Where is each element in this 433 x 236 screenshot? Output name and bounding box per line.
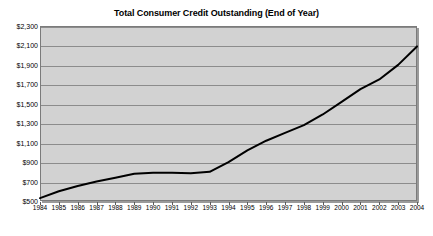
x-axis-tick-mark — [78, 202, 79, 205]
x-axis-tick-mark — [134, 202, 135, 205]
y-axis-tick-label: $1,100 — [0, 139, 38, 146]
x-axis-tick-mark — [210, 202, 211, 205]
x-axis-tick-label: 1985 — [52, 204, 66, 211]
series-line-total-consumer-credit-outstanding — [40, 46, 417, 198]
x-axis-tick-label: 1995 — [240, 204, 254, 211]
y-axis-tick-label: $1,500 — [0, 100, 38, 107]
x-axis-tick-mark — [323, 202, 324, 205]
y-axis-tick-label: $1,300 — [0, 120, 38, 127]
x-axis-tick-mark — [191, 202, 192, 205]
x-axis-tick-label: 1993 — [202, 204, 216, 211]
x-axis-tick-mark — [229, 202, 230, 205]
x-axis-tick-mark — [285, 202, 286, 205]
x-axis-tick-mark — [360, 202, 361, 205]
x-axis-tick-mark — [417, 202, 418, 205]
y-axis-tick-label: $900 — [0, 159, 38, 166]
x-axis-tick-mark — [115, 202, 116, 205]
x-axis-tick-label: 1986 — [70, 204, 84, 211]
x-axis-tick-label: 1994 — [221, 204, 235, 211]
x-axis-tick-mark — [342, 202, 343, 205]
x-axis-tick-mark — [379, 202, 380, 205]
x-axis-tick-mark — [172, 202, 173, 205]
y-axis-tick-label: $2,100 — [0, 42, 38, 49]
chart-title: Total Consumer Credit Outstanding (End o… — [0, 8, 433, 18]
data-series-line — [40, 26, 417, 201]
x-axis-tick-label: 1992 — [184, 204, 198, 211]
x-axis-tick-label: 1989 — [127, 204, 141, 211]
x-axis-tick-label: 1997 — [278, 204, 292, 211]
x-axis-tick-label: 1996 — [259, 204, 273, 211]
x-axis-tick-mark — [247, 202, 248, 205]
x-axis-tick-label: 1987 — [89, 204, 103, 211]
y-axis-tick-label: $2,300 — [0, 23, 38, 30]
y-axis-labels: $2,300$2,100$1,900$1,700$1,500$1,300$1,1… — [0, 26, 38, 201]
x-axis-tick-mark — [304, 202, 305, 205]
x-axis-tick-label: 1990 — [146, 204, 160, 211]
y-axis-tick-label: $1,700 — [0, 81, 38, 88]
x-axis-tick-label: 2004 — [410, 204, 424, 211]
x-axis-tick-label: 1991 — [165, 204, 179, 211]
x-axis-tick-label: 1984 — [33, 204, 47, 211]
x-axis-tick-label: 2001 — [353, 204, 367, 211]
x-axis-tick-mark — [153, 202, 154, 205]
x-axis-tick-mark — [97, 202, 98, 205]
chart-container: Total Consumer Credit Outstanding (End o… — [0, 0, 433, 236]
x-axis-tick-mark — [59, 202, 60, 205]
x-axis-tick-label: 1988 — [108, 204, 122, 211]
x-axis-tick-mark — [398, 202, 399, 205]
x-axis-tick-mark — [40, 202, 41, 205]
x-axis-tick-label: 2000 — [334, 204, 348, 211]
x-axis-tick-label: 1999 — [316, 204, 330, 211]
x-axis-tick-mark — [266, 202, 267, 205]
y-axis-tick-label: $1,900 — [0, 61, 38, 68]
x-axis-tick-label: 1998 — [297, 204, 311, 211]
x-axis-tick-label: 2003 — [391, 204, 405, 211]
x-axis-tick-label: 2002 — [372, 204, 386, 211]
y-axis-tick-label: $700 — [0, 178, 38, 185]
x-axis-labels: 1984198519861987198819891990199119921993… — [40, 204, 417, 218]
